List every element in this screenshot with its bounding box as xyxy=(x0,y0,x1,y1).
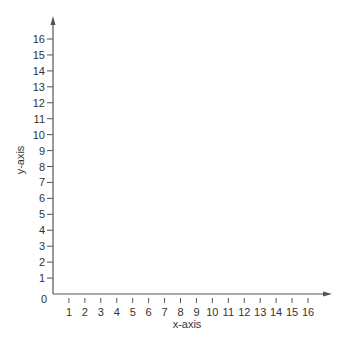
y-tick-label: 3 xyxy=(39,240,45,252)
y-axis-arrow-icon xyxy=(51,16,56,25)
x-axis-title: x-axis xyxy=(173,318,202,330)
y-tick-label: 9 xyxy=(39,145,45,157)
x-tick-label: 4 xyxy=(114,306,120,318)
x-tick-label: 12 xyxy=(238,306,250,318)
y-tick-label: 14 xyxy=(33,65,45,77)
y-tick-label: 10 xyxy=(33,129,45,141)
x-tick-label: 1 xyxy=(66,306,72,318)
origin-label: 0 xyxy=(41,293,47,305)
y-tick-label: 4 xyxy=(39,224,45,236)
y-axis-title: y-axis xyxy=(14,145,26,174)
x-tick-label: 5 xyxy=(130,306,136,318)
x-tick-label: 6 xyxy=(146,306,152,318)
x-tick-label: 16 xyxy=(302,306,314,318)
coordinate-plane: 12345678910111213141516 1234567891011121… xyxy=(0,0,347,346)
y-axis-ticks: 12345678910111213141516 xyxy=(33,33,53,284)
x-tick-label: 11 xyxy=(223,306,234,318)
y-tick-label: 12 xyxy=(33,97,45,109)
x-tick-label: 13 xyxy=(254,306,266,318)
x-tick-label: 3 xyxy=(98,306,104,318)
y-tick-label: 11 xyxy=(34,113,45,125)
y-tick-label: 15 xyxy=(33,49,45,61)
y-tick-label: 2 xyxy=(39,256,45,268)
y-tick-label: 16 xyxy=(33,33,45,45)
y-tick-label: 1 xyxy=(39,272,45,284)
x-tick-label: 8 xyxy=(177,306,183,318)
x-axis-arrow-icon xyxy=(323,292,332,297)
y-tick-label: 13 xyxy=(33,81,45,93)
x-tick-label: 10 xyxy=(206,306,218,318)
y-tick-label: 6 xyxy=(39,192,45,204)
y-tick-label: 8 xyxy=(39,161,45,173)
x-tick-label: 2 xyxy=(82,306,88,318)
x-tick-label: 9 xyxy=(193,306,199,318)
x-tick-label: 7 xyxy=(162,306,168,318)
x-tick-label: 15 xyxy=(286,306,298,318)
y-tick-label: 7 xyxy=(39,176,45,188)
x-axis-ticks: 12345678910111213141516 xyxy=(66,298,314,318)
y-tick-label: 5 xyxy=(39,208,45,220)
x-tick-label: 14 xyxy=(270,306,282,318)
